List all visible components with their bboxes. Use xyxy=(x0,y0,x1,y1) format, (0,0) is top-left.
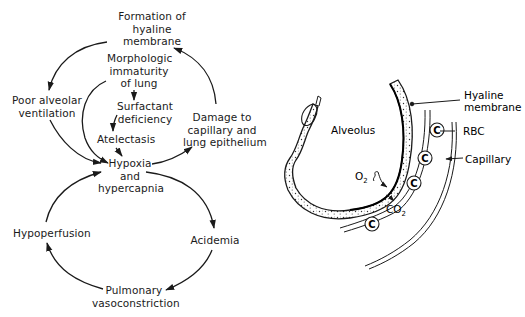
node-line: Morphologic xyxy=(107,52,171,65)
arrow-hypoperfusion-to-hypoxia xyxy=(46,172,101,222)
arrow-hyaline-to-poor-ventilation xyxy=(49,42,107,90)
node-pulmonary-vasoconstriction: Pulmonary vasoconstriction xyxy=(92,284,176,309)
arrow-vasoconstriction-to-hypoperfusion xyxy=(47,243,103,289)
label-capillary: Capillary xyxy=(465,153,511,165)
node-line: Formation of xyxy=(108,10,196,23)
node-line: Surfactant xyxy=(117,100,173,113)
rbc-cell: C xyxy=(418,151,432,165)
node-line: capillary and xyxy=(183,124,261,137)
svg-text:C: C xyxy=(410,178,417,189)
svg-text:C: C xyxy=(421,153,428,164)
node-line: lung epithelium xyxy=(183,136,261,149)
node-morphologic-immaturity: Morphologic immaturity of lung xyxy=(107,52,171,90)
node-hypoxia-hypercapnia: Hypoxia and hypercapnia xyxy=(98,157,162,195)
arrow-atelectasis-to-hypoxia xyxy=(116,148,122,156)
node-hyaline-formation: Formation of hyaline membrane xyxy=(108,10,196,48)
node-line: membrane xyxy=(108,35,196,48)
rbc-cell: C xyxy=(430,123,444,137)
node-poor-alveolar-ventilation: Poor alveolar ventilation xyxy=(10,94,84,119)
arrow-damage-to-hyaline xyxy=(174,48,216,104)
label-rbc: RBC xyxy=(463,125,485,137)
node-line: hyaline xyxy=(108,23,196,36)
node-line: Hypoperfusion xyxy=(13,227,85,240)
node-atelectasis: Atelectasis xyxy=(97,133,149,146)
node-line: deficiency xyxy=(117,113,173,126)
node-damage-capillary-epithelium: Damage to capillary and lung epithelium xyxy=(183,111,261,149)
label-alveolus: Alveolus xyxy=(331,124,375,136)
leader-capillary xyxy=(446,158,463,159)
node-acidemia: Acidemia xyxy=(190,234,240,247)
node-hypoperfusion: Hypoperfusion xyxy=(13,227,85,240)
node-line: immaturity xyxy=(107,65,171,78)
svg-text:C: C xyxy=(433,125,440,136)
diagram-canvas: C C C C Alveolus xyxy=(0,0,525,317)
node-line: ventilation xyxy=(10,107,84,120)
node-line: and xyxy=(98,170,162,183)
node-line: of lung xyxy=(107,77,171,90)
rbc-cell: C xyxy=(365,217,379,231)
node-line: Damage to xyxy=(183,111,261,124)
node-line: vasoconstriction xyxy=(92,297,176,310)
node-line: hypercapnia xyxy=(98,182,162,195)
leader-hyaline-membrane xyxy=(412,100,460,104)
rbc-cell: C xyxy=(407,176,421,190)
node-line: Atelectasis xyxy=(97,133,149,146)
alveolus-illustration: C C C C Alveolus xyxy=(285,80,522,269)
label-o2: O2 xyxy=(355,170,368,185)
node-line: Pulmonary xyxy=(92,284,176,297)
node-surfactant-deficiency: Surfactant deficiency xyxy=(117,100,173,125)
node-line: Poor alveolar xyxy=(10,94,84,107)
o2-diffusion-arrow xyxy=(373,172,387,187)
alveolar-wall xyxy=(285,80,413,219)
svg-text:C: C xyxy=(368,219,375,230)
arrow-poor-ventilation-to-hypoxia xyxy=(50,120,101,163)
arrow-immaturity-to-hypoxia xyxy=(82,81,108,163)
node-line: Hypoxia xyxy=(98,157,162,170)
label-hyaline-membrane: Hyaline membrane xyxy=(464,89,521,113)
node-line: Acidemia xyxy=(190,234,240,247)
